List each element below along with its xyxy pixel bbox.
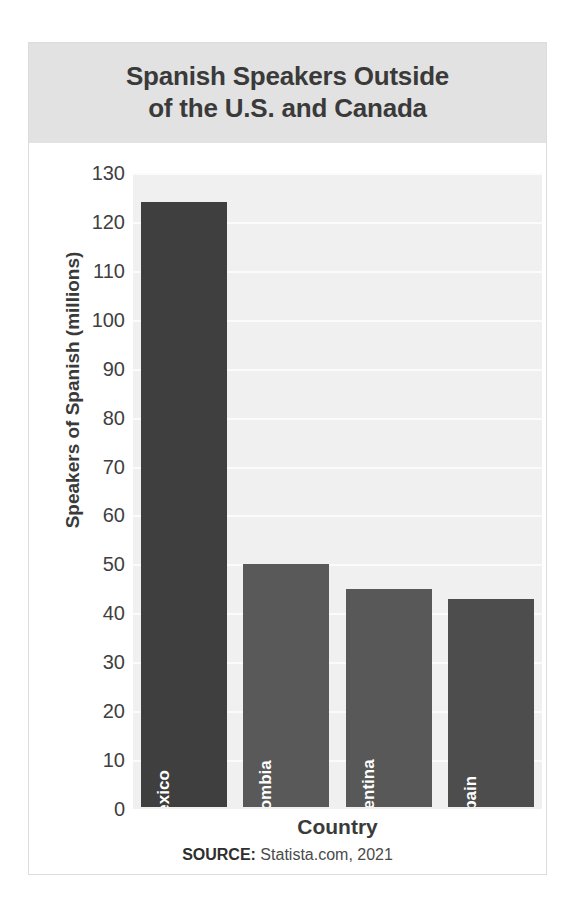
bar-series: MexicoColombiaArgentinaSpain	[133, 173, 542, 809]
y-axis-tick-label: 40	[65, 602, 125, 625]
bar-mexico[interactable]: Mexico	[141, 202, 227, 809]
y-axis-tick-label: 10	[65, 749, 125, 772]
y-axis-tick-label: 20	[65, 700, 125, 723]
chart-frame: Speakers of Spanish (millions) MexicoCol…	[29, 143, 546, 874]
chart-title-line-1: Spanish Speakers Outside	[126, 61, 449, 91]
source-prefix: SOURCE:	[182, 846, 256, 863]
chart-title-line-2: of the U.S. and Canada	[148, 93, 427, 123]
y-axis-tick-label: 90	[65, 357, 125, 380]
y-axis-tick-label: 50	[65, 553, 125, 576]
y-axis-tick-label: 130	[65, 162, 125, 185]
y-axis-title: Speakers of Spanish (millions)	[62, 250, 84, 530]
y-axis-tick-label: 80	[65, 406, 125, 429]
bar-label: Spain	[471, 776, 491, 809]
y-axis-tick-label: 110	[65, 259, 125, 282]
source-note: SOURCE: Statista.com, 2021	[29, 846, 546, 864]
y-axis-tick-label: 120	[65, 210, 125, 233]
x-axis-title: Country	[133, 815, 542, 839]
y-axis-tick-label: 60	[65, 504, 125, 527]
bar-label: Argentina	[369, 759, 389, 809]
axis-baseline	[133, 807, 542, 809]
y-axis-tick-label: 70	[65, 455, 125, 478]
bar-label: Mexico	[164, 770, 184, 809]
y-axis-tick-label: 0	[65, 798, 125, 821]
bar-label: Colombia	[266, 760, 286, 809]
y-axis-tick-label: 100	[65, 308, 125, 331]
bar-spain[interactable]: Spain	[448, 599, 534, 809]
page-title: Spanish Speakers Outside of the U.S. and…	[126, 61, 449, 124]
chart-title-band: Spanish Speakers Outside of the U.S. and…	[29, 43, 546, 143]
y-axis-tick-label: 30	[65, 651, 125, 674]
source-text: Statista.com, 2021	[260, 846, 393, 863]
bar-colombia[interactable]: Colombia	[243, 564, 329, 809]
chart-card: Spanish Speakers Outside of the U.S. and…	[28, 42, 547, 875]
bar-argentina[interactable]: Argentina	[346, 589, 432, 809]
plot-area: MexicoColombiaArgentinaSpain	[133, 173, 542, 809]
